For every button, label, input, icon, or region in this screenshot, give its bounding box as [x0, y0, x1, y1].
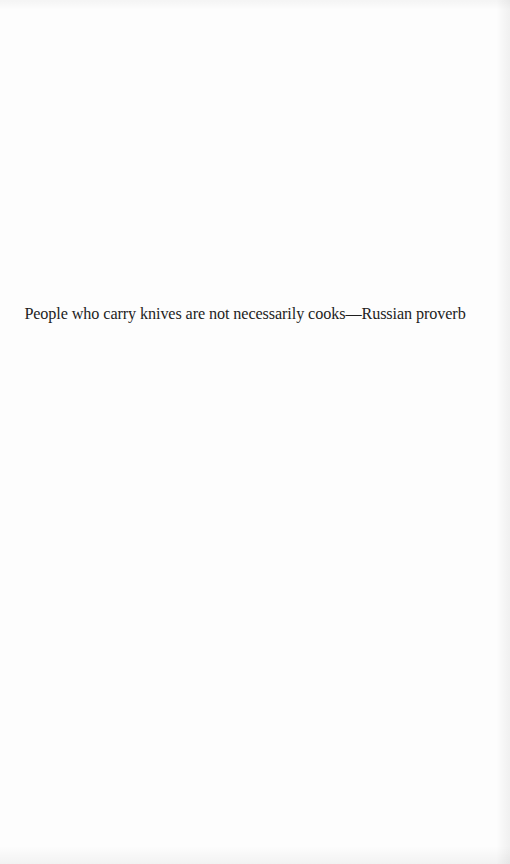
scan-edge-bottom: [0, 846, 510, 864]
page-gutter-shadow: [496, 0, 510, 864]
book-page: People who carry knives are not necessar…: [0, 0, 510, 864]
scan-edge-top: [0, 0, 510, 10]
epigraph-attribution: Russian proverb: [361, 305, 465, 323]
epigraph-quote: People who carry knives are not necessar…: [24, 305, 345, 323]
epigraph: People who carry knives are not necessar…: [0, 304, 490, 324]
epigraph-dash: —: [345, 305, 361, 323]
